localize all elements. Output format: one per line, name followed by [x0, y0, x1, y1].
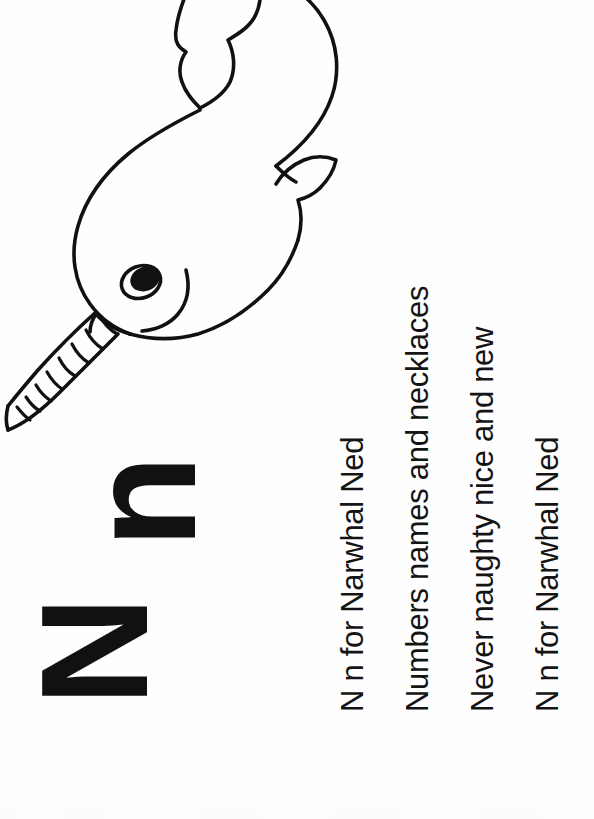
uppercase-letter-N: N	[18, 596, 170, 706]
tail-peduncle-outer	[260, 0, 337, 166]
rhyme-line-3: Never naughty nice and new	[467, 327, 498, 712]
tusk-spiral-ridges	[17, 316, 117, 420]
rhyme-line-4: N n for Narwhal Ned	[532, 437, 563, 712]
tusk-tip	[7, 406, 9, 430]
rhyme-line-1: N n for Narwhal Ned	[337, 437, 368, 712]
lowercase-letter-n: n	[66, 455, 218, 548]
tail-lower-lobe	[200, 0, 261, 108]
scan-noise-band	[0, 809, 594, 819]
coloring-page: N n N n for Narwhal Ned Numbers names an…	[0, 0, 594, 819]
body-back-outline	[74, 110, 200, 334]
rhyme-line-2: Numbers names and necklaces	[402, 286, 433, 712]
tail-upper-lobe	[176, 0, 200, 108]
narwhal-illustration	[0, 0, 360, 460]
narwhal-svg	[0, 0, 360, 460]
belly-to-flipper	[298, 188, 320, 240]
